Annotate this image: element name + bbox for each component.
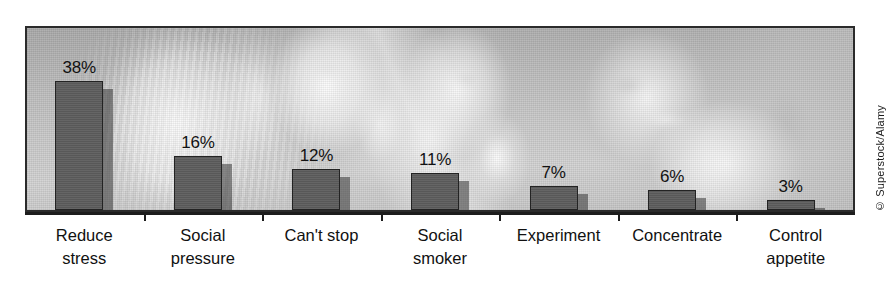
bar-value-label: 11%: [419, 150, 451, 170]
bar-body: [530, 186, 578, 210]
x-axis-tick: [499, 212, 501, 221]
image-credit: © Superstock/Alamy: [870, 26, 890, 212]
bar-body: [411, 173, 459, 210]
x-axis-tick: [736, 212, 738, 221]
bar: [767, 200, 825, 210]
bar-chart-figure: 38%16%12%11%7%6%3% ReducestressSocialpre…: [0, 0, 891, 290]
category-label: Reducestress: [56, 224, 113, 270]
category-label: Concentrate: [632, 224, 722, 247]
bar-body: [292, 169, 340, 210]
category-label-line: Can't stop: [285, 224, 359, 247]
bar-value-label: 12%: [300, 146, 333, 166]
bar-value-label: 16%: [181, 133, 214, 153]
x-axis-tick: [618, 212, 620, 221]
category-label-line: Experiment: [517, 224, 600, 247]
category-label-line: stress: [56, 247, 113, 270]
bar-body: [767, 200, 815, 210]
x-axis-tick: [262, 212, 264, 221]
category-label-line: Concentrate: [632, 224, 722, 247]
bar: [292, 169, 350, 210]
image-credit-text: © Superstock/Alamy: [874, 105, 886, 212]
category-label-line: Reduce: [56, 224, 113, 247]
category-label: Experiment: [517, 224, 600, 247]
bar: [411, 173, 469, 210]
bar-body: [174, 156, 222, 210]
bar-body: [55, 81, 103, 210]
x-axis-tick: [144, 212, 146, 221]
plot-area: [25, 26, 855, 212]
category-label: Socialpressure: [171, 224, 235, 270]
category-label-line: Control: [766, 224, 825, 247]
category-label: Controlappetite: [766, 224, 825, 270]
x-axis-line: [25, 212, 855, 215]
bar: [55, 81, 113, 210]
bar-value-label: 7%: [541, 163, 565, 183]
category-label: Socialsmoker: [413, 224, 467, 270]
category-label-line: Social: [171, 224, 235, 247]
category-label-line: smoker: [413, 247, 467, 270]
category-label-line: pressure: [171, 247, 235, 270]
bar-body: [648, 190, 696, 210]
bar-value-label: 6%: [660, 167, 684, 187]
bar: [648, 190, 706, 210]
category-label-line: appetite: [766, 247, 825, 270]
x-axis-tick: [381, 212, 383, 221]
category-label-line: Social: [413, 224, 467, 247]
bar-value-label: 3%: [779, 177, 803, 197]
bar-value-label: 38%: [63, 58, 96, 78]
bar: [530, 186, 588, 210]
bar: [174, 156, 232, 210]
category-label: Can't stop: [285, 224, 359, 247]
